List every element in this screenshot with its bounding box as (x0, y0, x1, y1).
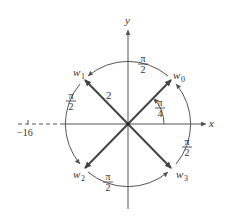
arc-label-right: π 2 (182, 136, 192, 158)
svg-text:2: 2 (185, 147, 190, 158)
roots-of-unity-diagram: x y 2 π 4 π 2 π 2 π 2 π 2 w 0 w 1 w 2 w (0, 0, 228, 218)
svg-text:π: π (184, 136, 189, 147)
radius-label: 2 (106, 89, 112, 101)
svg-text:w: w (173, 69, 181, 81)
root-label-w3: w 3 (176, 168, 188, 183)
svg-text:2: 2 (81, 174, 85, 183)
vector-w1 (85, 80, 128, 124)
arc-label-bottom: π 2 (103, 171, 113, 193)
svg-text:3: 3 (184, 174, 188, 183)
svg-text:w: w (73, 168, 81, 180)
tick-label: −16 (17, 127, 33, 138)
svg-text:w: w (176, 168, 184, 180)
svg-text:2: 2 (69, 101, 74, 112)
root-label-w2: w 2 (73, 168, 85, 183)
svg-text:π: π (68, 90, 73, 101)
svg-text:π: π (157, 97, 162, 108)
svg-text:0: 0 (181, 75, 185, 84)
arc-label-top: π 2 (138, 53, 148, 75)
root-label-w1: w 1 (73, 66, 85, 81)
svg-text:π: π (105, 171, 110, 182)
svg-text:π: π (140, 53, 145, 64)
x-axis (18, 120, 206, 124)
x-axis-label: x (208, 117, 214, 129)
vector-w2 (85, 124, 128, 168)
root-label-w0: w 0 (173, 69, 185, 84)
y-axis-label: y (124, 14, 130, 26)
vector-w0 (128, 80, 171, 124)
svg-text:2: 2 (106, 182, 111, 193)
vector-w3 (128, 124, 171, 168)
origin-dot (127, 123, 130, 126)
svg-text:4: 4 (158, 108, 163, 119)
svg-text:w: w (73, 66, 81, 78)
svg-text:2: 2 (141, 64, 146, 75)
svg-text:1: 1 (81, 72, 85, 81)
